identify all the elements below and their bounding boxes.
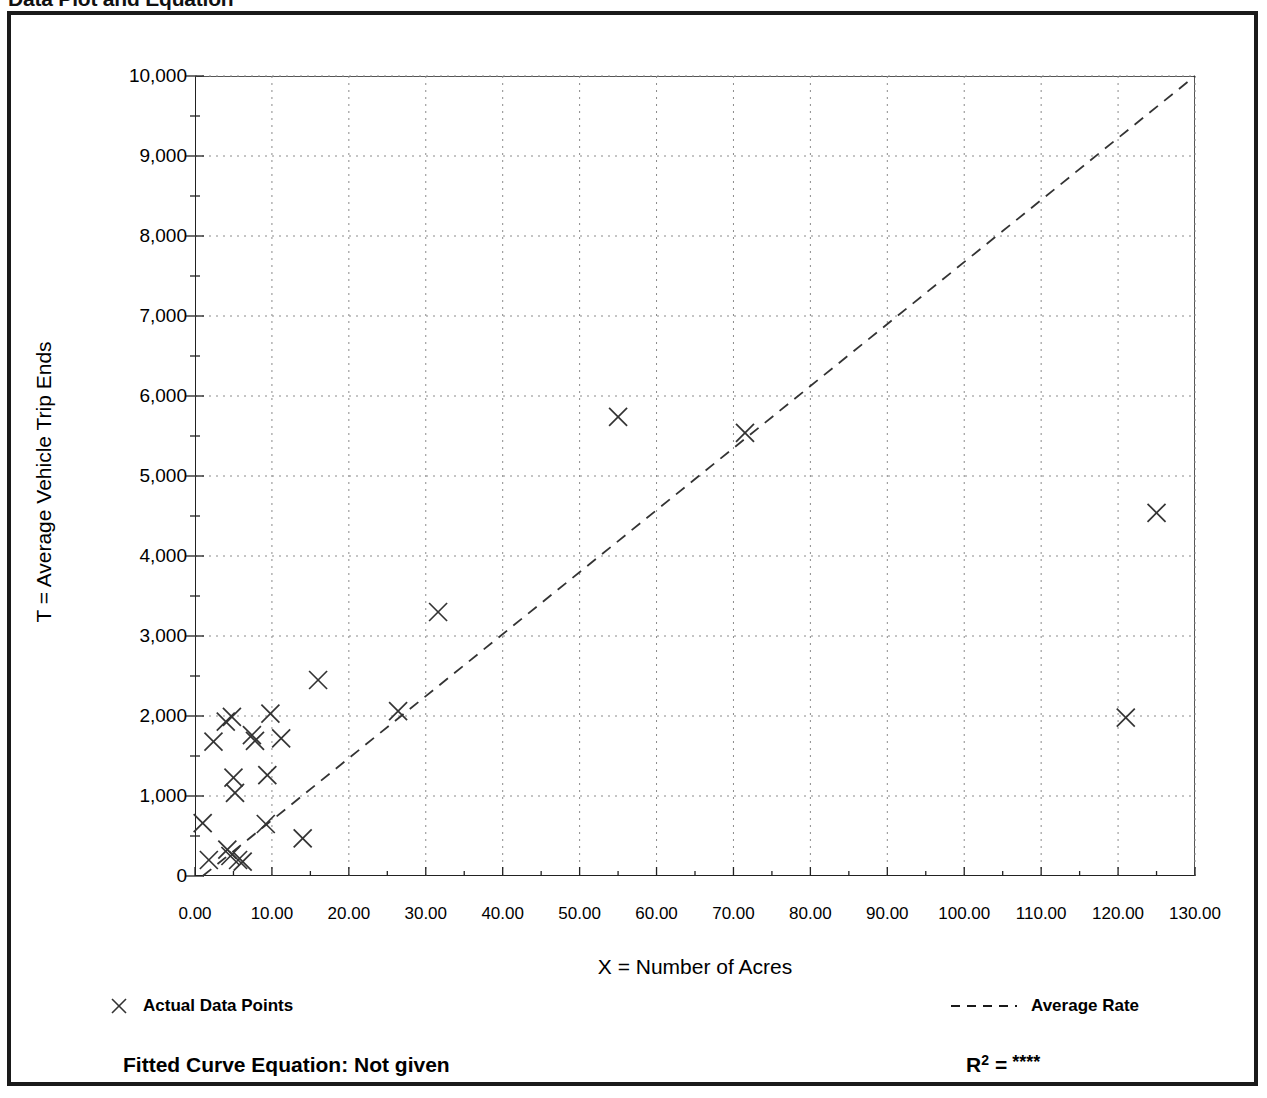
legend-label-average-rate: Average Rate — [1031, 996, 1139, 1016]
y-axis-tick-label: 3,000 — [139, 625, 187, 647]
x-axis-tick-label: 50.00 — [558, 904, 601, 924]
data-point-marker — [1148, 504, 1166, 522]
x-axis-tick-label: 90.00 — [866, 904, 909, 924]
x-axis-tick-label: 80.00 — [789, 904, 832, 924]
x-axis-tick-label: 110.00 — [1016, 904, 1067, 924]
x-axis-tick-label: 130.00 — [1169, 904, 1221, 924]
x-axis-tick-label: 60.00 — [635, 904, 678, 924]
y-axis-tick-label: 4,000 — [139, 545, 187, 567]
data-point-marker — [246, 732, 264, 750]
data-point-marker — [272, 729, 290, 747]
legend-item-actual-data-points: Actual Data Points — [109, 996, 293, 1016]
data-points-group — [194, 408, 1166, 871]
y-axis-tick-label: 10,000 — [129, 65, 187, 87]
data-point-marker — [294, 829, 312, 847]
chart-legend: Actual Data Points Average Rate — [11, 990, 1254, 1034]
r-squared-label: R — [966, 1053, 981, 1077]
y-axis-tick-label: 1,000 — [139, 785, 187, 807]
data-point-marker — [261, 705, 279, 723]
plot-area — [195, 76, 1195, 876]
data-point-marker — [200, 851, 218, 869]
y-axis-title: T = Average Vehicle Trip Ends — [32, 152, 56, 812]
fitted-curve-equation: Fitted Curve Equation: Not given — [123, 1053, 450, 1077]
y-axis-tick-label: 0 — [176, 865, 187, 887]
legend-item-average-rate: Average Rate — [951, 996, 1139, 1016]
y-axis-tick-label: 8,000 — [139, 225, 187, 247]
y-axis-tick-label: 6,000 — [139, 385, 187, 407]
data-point-marker — [609, 408, 627, 426]
chart-canvas — [195, 76, 1195, 876]
y-axis-tick-label: 7,000 — [139, 305, 187, 327]
data-point-marker — [429, 603, 447, 621]
x-axis-tick-label: 40.00 — [481, 904, 524, 924]
x-axis-tick-label: 100.00 — [938, 904, 990, 924]
data-point-marker — [258, 766, 276, 784]
x-marker-icon — [109, 996, 129, 1016]
data-point-marker — [1117, 709, 1135, 727]
x-axis-tick-label: 120.00 — [1092, 904, 1144, 924]
data-point-marker — [223, 708, 241, 726]
equation-row: Fitted Curve Equation: Not given R2 = **… — [11, 1045, 1254, 1093]
chart-page: Data Plot and Equation 01,0002,0003,0004… — [0, 0, 1267, 1098]
data-point-marker — [243, 726, 261, 744]
x-axis-tick-labels: 0.0010.0020.0030.0040.0050.0060.0070.008… — [195, 904, 1195, 930]
y-axis-tick-label: 2,000 — [139, 705, 187, 727]
data-point-marker — [309, 671, 327, 689]
x-axis-tick-label: 20.00 — [328, 904, 371, 924]
data-point-marker — [217, 713, 235, 731]
average-rate-trend-line — [203, 76, 1195, 876]
data-point-marker — [226, 784, 244, 802]
y-axis-tick-labels: 01,0002,0003,0004,0005,0006,0007,0008,00… — [95, 76, 187, 876]
r-squared-block: R2 = **** — [966, 1053, 1040, 1077]
data-point-marker — [194, 814, 212, 832]
grid-lines — [195, 76, 1195, 876]
x-axis-title: X = Number of Acres — [195, 955, 1195, 979]
r-squared-equals: = — [995, 1053, 1007, 1077]
x-axis-tick-label: 70.00 — [712, 904, 755, 924]
y-axis-tick-label: 9,000 — [139, 145, 187, 167]
chart-outer-frame: 01,0002,0003,0004,0005,0006,0007,0008,00… — [7, 11, 1258, 1086]
r-squared-exponent: 2 — [981, 1052, 989, 1068]
x-axis-tick-label: 10.00 — [251, 904, 294, 924]
page-title: Data Plot and Equation — [8, 0, 233, 11]
x-axis-tick-label: 30.00 — [404, 904, 447, 924]
dashed-line-icon — [951, 1005, 1017, 1007]
x-axis-tick-label: 0.00 — [178, 904, 211, 924]
y-axis-tick-label: 5,000 — [139, 465, 187, 487]
r-squared-value: **** — [1012, 1052, 1040, 1073]
data-point-marker — [204, 733, 222, 751]
legend-label-actual-data-points: Actual Data Points — [143, 996, 293, 1016]
data-point-marker — [257, 815, 275, 833]
